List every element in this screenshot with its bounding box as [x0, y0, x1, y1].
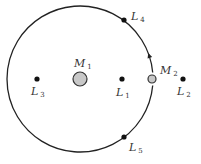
label-m1: M1 — [73, 57, 92, 71]
mass-m2 — [148, 75, 156, 83]
lagrange-point-l2 — [180, 76, 185, 81]
lagrange-points-group: L1L2L3L4L5 — [30, 10, 191, 155]
orbit-direction-arrow-icon — [148, 53, 153, 59]
lagrange-point-l5 — [121, 134, 126, 139]
label-l2: L2 — [176, 85, 191, 99]
lagrange-point-l3 — [34, 76, 39, 81]
mass-m1 — [73, 72, 87, 86]
label-l3: L3 — [30, 85, 45, 99]
lagrange-point-l4 — [121, 17, 126, 22]
lagrange-diagram: M1M2 L1L2L3L4L5 — [0, 0, 201, 164]
label-l5: L5 — [128, 141, 143, 155]
label-m2: M2 — [159, 64, 178, 78]
lagrange-point-l1 — [119, 76, 124, 81]
masses-group: M1M2 — [73, 57, 178, 86]
label-l1: L1 — [115, 86, 130, 100]
label-l4: L4 — [130, 10, 145, 24]
